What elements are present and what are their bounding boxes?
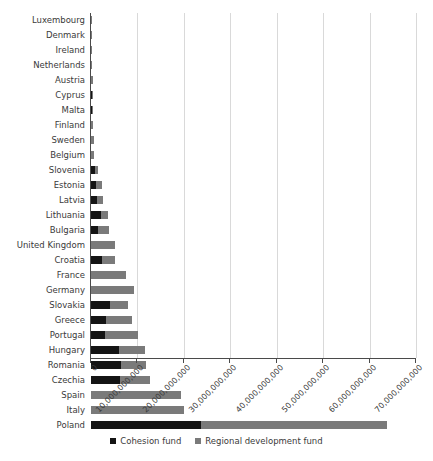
legend-item[interactable]: Cohesion fund	[110, 436, 181, 446]
bar-segment	[91, 151, 94, 159]
bar-row	[91, 88, 416, 103]
bar-segment	[91, 346, 119, 354]
chart-container: LuxembourgDenmarkIrelandNetherlandsAustr…	[0, 0, 433, 461]
x-axis-tick	[90, 358, 91, 363]
bar-row	[91, 58, 416, 73]
bar-row	[91, 193, 416, 208]
x-axis-tick-label: 0	[89, 363, 99, 373]
bar-row	[91, 178, 416, 193]
bar-row	[91, 13, 416, 28]
bar-row	[91, 43, 416, 58]
x-axis-tick	[369, 358, 370, 363]
bar-row	[91, 223, 416, 238]
y-axis-label: Lithuania	[0, 208, 88, 223]
y-axis-label: Finland	[0, 118, 88, 133]
bar-segment	[98, 226, 108, 234]
bar-segment	[97, 196, 103, 204]
plot-area	[90, 13, 416, 358]
x-axis-tick-label: 30,000,000,000	[187, 363, 238, 414]
bar-segment	[91, 31, 92, 39]
chart-legend: Cohesion fundRegional development fund	[0, 436, 433, 446]
y-axis-label: Belgium	[0, 148, 88, 163]
bar-segment	[91, 16, 92, 24]
y-axis-label: Portugal	[0, 328, 88, 343]
x-axis-tick	[229, 358, 230, 363]
bar-row	[91, 148, 416, 163]
y-axis-label: Latvia	[0, 193, 88, 208]
bar-row	[91, 208, 416, 223]
x-axis-tick-label: 40,000,000,000	[234, 363, 285, 414]
x-axis-tick	[276, 358, 277, 363]
bar-segment	[91, 226, 98, 234]
y-axis-label: Denmark	[0, 28, 88, 43]
y-axis-label: Hungary	[0, 343, 88, 358]
bar-segment	[92, 106, 93, 114]
bar-segment	[91, 121, 93, 129]
x-axis-tick-label: 60,000,000,000	[327, 363, 378, 414]
x-axis-tick	[183, 358, 184, 363]
legend-label: Regional development fund	[205, 436, 322, 446]
bar-row	[91, 328, 416, 343]
bar-rows	[91, 13, 416, 358]
bar-segment	[91, 136, 94, 144]
y-axis-label: France	[0, 268, 88, 283]
bar-segment	[110, 301, 128, 309]
x-axis-tick	[415, 358, 416, 363]
bar-row	[91, 133, 416, 148]
y-axis-label: Netherlands	[0, 58, 88, 73]
bar-segment	[91, 76, 93, 84]
chart-title-cutoff	[0, 0, 433, 4]
y-axis-label: Luxembourg	[0, 13, 88, 28]
bar-row	[91, 283, 416, 298]
y-axis-label: Austria	[0, 73, 88, 88]
bar-segment	[91, 316, 106, 324]
bar-segment	[119, 346, 145, 354]
bar-row	[91, 163, 416, 178]
bar-row	[91, 118, 416, 133]
legend-swatch-icon	[195, 438, 201, 444]
bar-segment	[101, 211, 108, 219]
legend-item[interactable]: Regional development fund	[195, 436, 322, 446]
bar-segment	[96, 181, 102, 189]
bar-segment	[91, 241, 115, 249]
x-axis-line	[90, 358, 416, 359]
bar-segment	[91, 211, 101, 219]
y-axis-label: Croatia	[0, 253, 88, 268]
y-axis-label: Ireland	[0, 43, 88, 58]
gridline	[416, 13, 417, 358]
x-axis-labels: 010,000,000,00020,000,000,00030,000,000,…	[0, 363, 433, 423]
x-axis-tick-label: 10,000,000,000	[94, 363, 145, 414]
x-axis-tick	[322, 358, 323, 363]
legend-swatch-icon	[110, 438, 116, 444]
bar-row	[91, 238, 416, 253]
bar-row	[91, 313, 416, 328]
bar-row	[91, 253, 416, 268]
x-axis-tick-label: 50,000,000,000	[280, 363, 331, 414]
y-axis-label: Slovenia	[0, 163, 88, 178]
bar-segment	[102, 256, 115, 264]
x-axis-tick	[136, 358, 137, 363]
bar-segment	[91, 46, 92, 54]
y-axis-label: Estonia	[0, 178, 88, 193]
bar-segment	[91, 331, 105, 339]
bar-segment	[105, 331, 138, 339]
y-axis-label: Sweden	[0, 133, 88, 148]
bar-segment	[91, 256, 102, 264]
bar-segment	[95, 166, 98, 174]
legend-label: Cohesion fund	[120, 436, 181, 446]
y-axis-label: Greece	[0, 313, 88, 328]
y-axis-label: Cyprus	[0, 88, 88, 103]
bar-row	[91, 28, 416, 43]
y-axis-label: Slovakia	[0, 298, 88, 313]
y-axis-label: United Kingdom	[0, 238, 88, 253]
bar-segment	[91, 61, 92, 69]
bar-row	[91, 268, 416, 283]
bar-row	[91, 103, 416, 118]
bar-segment	[106, 316, 132, 324]
y-axis-label: Bulgaria	[0, 223, 88, 238]
bar-segment	[91, 271, 126, 279]
y-axis-label: Malta	[0, 103, 88, 118]
x-axis-tick-label: 20,000,000,000	[141, 363, 192, 414]
y-axis-label: Germany	[0, 283, 88, 298]
bar-row	[91, 343, 416, 358]
